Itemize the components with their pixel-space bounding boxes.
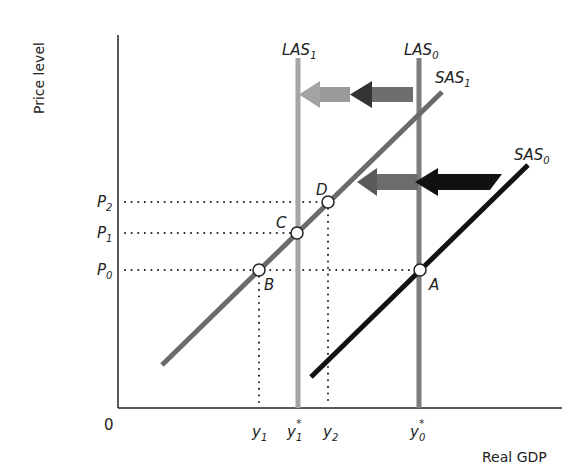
y0star-label: y0* [409,418,425,443]
x-axis-title: Real GDP [482,449,547,465]
point-b [253,264,265,276]
y1-label: y1 [251,423,267,443]
las-shift-arrow [299,81,413,108]
sas-shift-arrow [357,168,502,196]
p2-label: P2 [97,193,112,213]
point-label-c: C [276,214,287,232]
point-label-b: B [264,276,274,294]
p0-label: P0 [97,261,112,281]
guide-lines [125,202,420,405]
point-label-a: A [428,276,439,294]
sas0-label: SAS0 [514,146,550,166]
point-c [291,227,303,239]
las0-label: LAS0 [404,41,439,61]
las1-label: LAS1 [282,41,317,61]
origin-label: 0 [104,416,114,434]
y-axis-title: Price level [31,42,47,114]
y1star-label: y1* [286,418,302,443]
as-diagram: A B C D LAS1 LAS0 SAS1 SAS0 P2 P1 P0 0 y… [0,0,585,470]
y2-label: y2 [322,423,338,443]
point-label-d: D [316,181,328,199]
sas1-label: SAS1 [435,69,471,89]
point-a [414,264,426,276]
p1-label: P1 [97,224,112,244]
